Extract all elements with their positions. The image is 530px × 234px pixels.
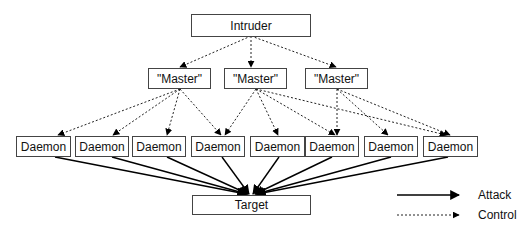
master-node: "Master" <box>148 68 211 89</box>
daemon-node: Daemon <box>305 136 359 157</box>
daemon-node: Daemon <box>132 136 186 157</box>
attack-edges <box>55 157 448 194</box>
ddos-diagram: Intruder "Master" "Master" "Master" Daem… <box>0 0 530 234</box>
legend-control-label: Control <box>478 208 517 222</box>
intruder-node: Intruder <box>191 14 311 37</box>
legend-lines <box>397 195 459 215</box>
daemon-node: Daemon <box>191 136 245 157</box>
master-node: "Master" <box>305 68 368 89</box>
daemon-node: Daemon <box>423 136 478 157</box>
target-node: Target <box>192 195 311 215</box>
legend-attack-label: Attack <box>478 188 511 202</box>
daemon-node: Daemon <box>75 136 129 157</box>
daemon-node: Daemon <box>364 136 418 157</box>
daemon-node: Daemon <box>250 136 305 157</box>
daemon-node: Daemon <box>16 136 71 157</box>
master-node: "Master" <box>224 68 287 89</box>
